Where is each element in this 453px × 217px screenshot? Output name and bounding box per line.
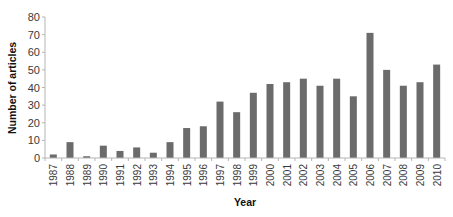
bar-2000	[267, 84, 274, 158]
bar-2010	[433, 65, 440, 158]
x-tick-label: 2003	[315, 164, 326, 187]
x-tick-label: 1988	[65, 164, 76, 187]
bar-2002	[300, 79, 307, 158]
y-tick-label: 60	[28, 46, 40, 58]
y-tick-label: 50	[28, 64, 40, 76]
bar-2007	[383, 70, 390, 158]
y-tick-label: 0	[34, 152, 40, 164]
bar-1992	[133, 147, 140, 158]
y-tick-label: 20	[28, 117, 40, 129]
y-tick-label: 10	[28, 134, 40, 146]
y-tick-label: 30	[28, 99, 40, 111]
bar-1993	[150, 153, 157, 158]
bar-2008	[400, 86, 407, 158]
bar-2005	[350, 96, 357, 158]
bar-1991	[117, 151, 124, 158]
bar-1995	[183, 128, 190, 158]
bar-1990	[100, 146, 107, 158]
x-tick-label: 1987	[48, 164, 59, 187]
y-tick-label: 70	[28, 29, 40, 41]
x-tick-label: 1999	[248, 164, 259, 187]
x-tick-label: 2007	[382, 164, 393, 187]
x-tick-label: 2006	[365, 164, 376, 187]
y-axis: 01020304050607080	[28, 11, 45, 164]
bar-2006	[367, 33, 374, 158]
x-tick-label: 1997	[215, 164, 226, 187]
x-tick-label: 2002	[298, 164, 309, 187]
bar-1994	[167, 142, 174, 158]
x-tick-label: 1991	[115, 164, 126, 187]
x-tick-label: 1990	[98, 164, 109, 187]
x-tick-label: 1989	[82, 164, 93, 187]
x-tick-label: 1992	[132, 164, 143, 187]
y-tick-label: 40	[28, 82, 40, 94]
x-tick-label: 1994	[165, 164, 176, 187]
bar-2009	[417, 82, 424, 158]
x-tick-label: 1996	[198, 164, 209, 187]
bar-2003	[317, 86, 324, 158]
y-tick-label: 80	[28, 11, 40, 23]
bars	[50, 33, 440, 158]
x-tick-label: 1995	[182, 164, 193, 187]
x-tick-label: 2000	[265, 164, 276, 187]
x-tick-label: 2010	[432, 164, 443, 187]
x-tick-label: 2001	[282, 164, 293, 187]
x-tick-label: 2004	[332, 164, 343, 187]
x-tick-label: 1993	[148, 164, 159, 187]
bar-1999	[250, 93, 257, 158]
x-tick-label: 1998	[232, 164, 243, 187]
bar-1996	[200, 126, 207, 158]
bar-1998	[233, 112, 240, 158]
bar-1987	[50, 154, 57, 158]
x-tick-label: 2005	[348, 164, 359, 187]
x-axis: 1987198819891990199119921993199419951996…	[45, 158, 445, 186]
x-tick-label: 2008	[398, 164, 409, 187]
x-axis-title: Year	[234, 196, 256, 208]
bar-2001	[283, 82, 290, 158]
y-axis-title: Number of articles	[6, 42, 18, 134]
bar-2004	[333, 79, 340, 158]
bar-1997	[217, 102, 224, 158]
bar-1988	[67, 142, 74, 158]
x-tick-label: 2009	[415, 164, 426, 187]
bar-chart: 01020304050607080 1987198819891990199119…	[0, 0, 453, 217]
